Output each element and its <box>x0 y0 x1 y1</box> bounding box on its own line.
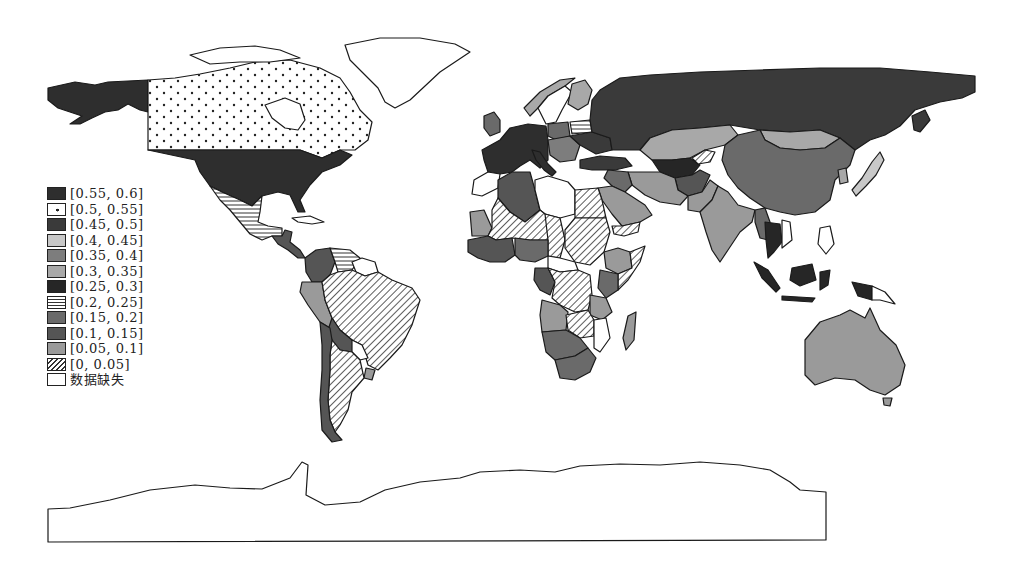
region-tasmania <box>883 398 892 406</box>
legend-label: [0.35, 0.4] <box>70 248 144 263</box>
region-vietnam <box>782 220 792 248</box>
region-papua-new-guinea <box>872 286 895 304</box>
region-finland <box>568 80 592 110</box>
legend-item: [0.35, 0.4] <box>47 248 144 264</box>
legend-swatch-dots <box>47 203 66 216</box>
legend-item: [0.3, 0.35] <box>47 264 144 280</box>
legend-label: [0.05, 0.1] <box>70 341 144 356</box>
legend-swatch-dark-gray <box>47 311 66 324</box>
legend-item: [0.45, 0.5] <box>47 217 144 233</box>
legend-item: [0.5, 0.55] <box>47 202 144 218</box>
legend-label: [0.2, 0.25] <box>70 295 144 310</box>
legend-swatch-solid-dark <box>47 218 66 231</box>
region-cuba <box>292 216 324 224</box>
legend-swatch-medium-gray <box>47 342 66 355</box>
region-tanzania <box>590 295 612 320</box>
region-belarus <box>570 120 592 134</box>
legend-label: 数据缺失 <box>70 372 124 387</box>
region-uruguay <box>364 368 375 380</box>
region-sumatra <box>754 262 780 292</box>
legend-swatch-mid-gray <box>47 249 66 262</box>
legend-swatch-charcoal <box>47 327 66 340</box>
legend-item: [0.2, 0.25] <box>47 295 144 311</box>
region-thailand <box>765 222 782 258</box>
region-kamchatka <box>912 110 930 132</box>
region-kenya <box>598 270 618 298</box>
legend-label: [0.25, 0.3] <box>70 279 144 294</box>
region-madagascar <box>623 312 636 350</box>
legend-swatch-gray <box>47 265 66 278</box>
region-sudan <box>565 218 610 265</box>
region-uk <box>484 112 500 136</box>
region-papua-indonesia <box>852 282 872 300</box>
legend-item: [0.25, 0.3] <box>47 279 144 295</box>
legend-swatch-missing-data <box>47 373 66 386</box>
region-mauritania <box>470 210 492 236</box>
region-morocco <box>472 172 500 196</box>
legend-item: [0, 0.05] <box>47 357 144 373</box>
region-borneo <box>790 264 816 286</box>
legend-label: [0.1, 0.15] <box>70 326 144 341</box>
region-java <box>782 296 815 302</box>
legend-swatch-diagonal-hatch <box>47 358 66 371</box>
region-canada <box>148 60 372 158</box>
legend-item: [0.55, 0.6] <box>47 186 144 202</box>
region-alaska <box>48 80 148 124</box>
legend-item: [0.1, 0.15] <box>47 326 144 342</box>
region-korea <box>838 168 848 184</box>
region-mozambique <box>594 318 610 352</box>
region-philippines <box>818 226 834 254</box>
region-sulawesi <box>820 270 830 290</box>
legend-label: [0.3, 0.35] <box>70 264 144 279</box>
legend-label: [0.45, 0.5] <box>70 217 144 232</box>
region-turkey <box>580 156 632 170</box>
region-greenland <box>345 38 470 108</box>
legend-label: [0.4, 0.45] <box>70 233 144 248</box>
legend-item: [0.4, 0.45] <box>47 233 144 249</box>
legend-item: [0.05, 0.1] <box>47 341 144 357</box>
legend-item: [0.15, 0.2] <box>47 310 144 326</box>
region-nigeria <box>515 238 548 262</box>
legend-label: [0, 0.05] <box>70 357 130 372</box>
world-choropleth-map <box>0 0 1017 571</box>
legend-swatch-solid-darkest <box>47 187 66 200</box>
map-legend: [0.55, 0.6] [0.5, 0.55] [0.45, 0.5] [0.4… <box>47 186 144 388</box>
legend-swatch-light-gray <box>47 234 66 247</box>
region-west-africa <box>468 236 515 262</box>
legend-item: 数据缺失 <box>47 372 144 388</box>
region-australia <box>805 308 905 395</box>
legend-label: [0.5, 0.55] <box>70 202 144 217</box>
legend-label: [0.15, 0.2] <box>70 310 144 325</box>
legend-swatch-horizontal-lines <box>47 296 66 309</box>
legend-label: [0.55, 0.6] <box>70 186 144 201</box>
region-japan <box>852 152 884 196</box>
legend-swatch-near-black <box>47 280 66 293</box>
region-usa <box>148 150 352 212</box>
region-antarctica <box>48 462 826 542</box>
